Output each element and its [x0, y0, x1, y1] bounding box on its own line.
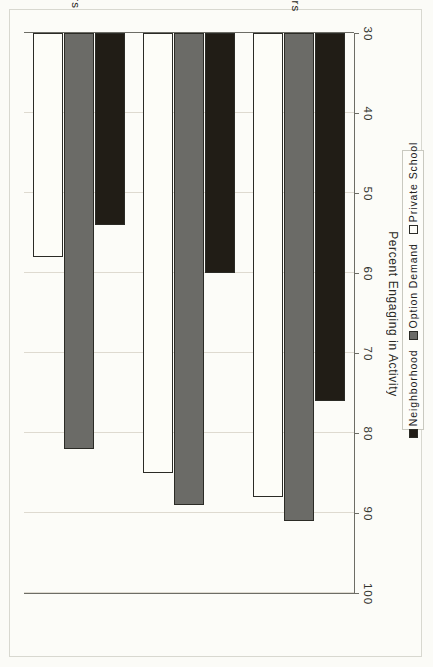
axis-tick-label: 50 — [362, 174, 374, 214]
axis-tick — [354, 353, 359, 354]
black-square-swatch — [409, 429, 418, 438]
axis-tick-label: 80 — [362, 414, 374, 454]
bar-option-demand-trust-teachers — [284, 33, 314, 521]
axis-tick — [354, 273, 359, 274]
legend-label: Neighborhood — [407, 349, 419, 426]
legend-entry: Option Demand — [407, 243, 419, 340]
gray-square-swatch — [409, 331, 418, 340]
bar-option-demand-volunteers — [174, 33, 204, 505]
axis-tick — [354, 33, 359, 34]
axis-tick — [354, 113, 359, 114]
axis-tick-label: 100 — [362, 574, 374, 614]
bar-group — [134, 34, 244, 593]
chart-legend: NeighborhoodOption DemandPrivate School — [402, 150, 424, 430]
axis-tick-label: 90 — [362, 494, 374, 534]
axis-tick-label: 30 — [362, 14, 374, 54]
bar-group — [244, 34, 354, 593]
axis-tick-label: 60 — [362, 254, 374, 294]
axis-line — [354, 34, 355, 594]
legend-label: Option Demand — [407, 243, 419, 328]
bar-option-demand-pta-members — [64, 33, 94, 449]
category-label: PTA Members — [70, 0, 82, 27]
white-square-swatch — [409, 225, 418, 234]
chart-figure-frame: PTA MembersVolunteersTrust Teachers Perc… — [9, 9, 422, 657]
bar-neighborhood-pta-members — [95, 33, 125, 225]
plot-area: PTA MembersVolunteersTrust Teachers — [24, 34, 354, 594]
legend-label: Private School — [407, 142, 419, 222]
axis-tick — [354, 593, 359, 594]
bar-private-school-trust-teachers — [253, 33, 283, 497]
bar-private-school-volunteers — [143, 33, 173, 473]
axis-tick — [354, 513, 359, 514]
axis-tick-label: 70 — [362, 334, 374, 374]
bar-neighborhood-trust-teachers — [315, 33, 345, 401]
bar-neighborhood-volunteers — [205, 33, 235, 273]
rotated-chart-stage: PTA MembersVolunteersTrust Teachers Perc… — [16, 18, 416, 648]
axis-tick — [354, 193, 359, 194]
legend-entry: Neighborhood — [407, 349, 419, 438]
axis-tick — [354, 433, 359, 434]
axis-title: Percent Engaging in Activity — [386, 34, 400, 594]
scanned-page: PTA MembersVolunteersTrust Teachers Perc… — [0, 0, 433, 667]
category-label: Trust Teachers — [290, 0, 302, 27]
legend-inner: NeighborhoodOption DemandPrivate School — [402, 150, 424, 430]
axis-tick-label: 40 — [362, 94, 374, 134]
bar-group — [24, 34, 134, 593]
category-label: Volunteers — [180, 0, 192, 27]
legend-entry: Private School — [407, 142, 419, 234]
bar-private-school-pta-members — [33, 33, 63, 257]
